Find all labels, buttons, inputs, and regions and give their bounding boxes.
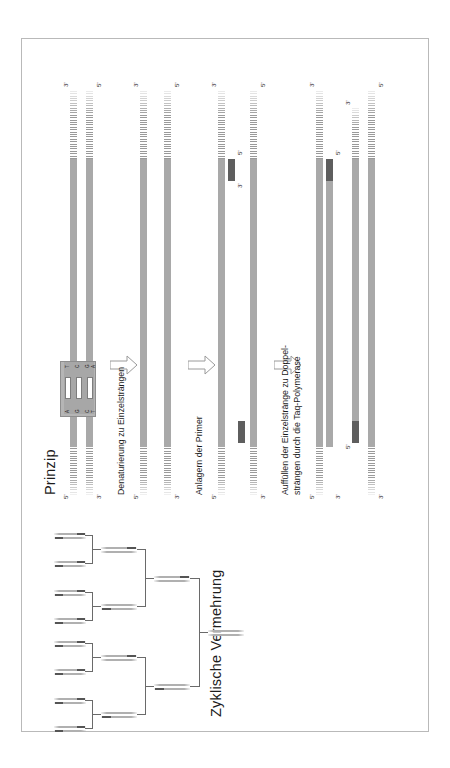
strand-body [140, 159, 147, 447]
end-label-3prime: 3' [377, 494, 384, 499]
step-label-denaturierung: Denaturierung zu Einzelsträngen [116, 367, 127, 495]
base-letter: G [85, 364, 90, 368]
strand-hatch-right [140, 89, 147, 159]
duplex [101, 710, 137, 719]
strand-body [250, 159, 257, 447]
end-label-5prime: 5' [308, 494, 315, 499]
strand-hatch-right [368, 89, 375, 159]
strand-hatch-right [86, 89, 93, 159]
duplex [54, 616, 86, 625]
end-label-3prime: 3' [62, 82, 69, 87]
strand-body [218, 159, 225, 447]
duplex [54, 724, 86, 733]
end-label-3prime: 3' [132, 82, 139, 87]
duplex [54, 588, 86, 597]
primer-lower [352, 421, 359, 443]
strand-hatch-right [70, 89, 77, 159]
section-title-prinzip: Prinzip [42, 449, 58, 495]
strand-body [368, 159, 375, 447]
strand-hatch-right [164, 89, 171, 159]
end-label-5prime: 5' [132, 494, 139, 499]
strand-hatch-left [218, 447, 225, 495]
end-label-5prime: 5' [210, 494, 217, 499]
step-label-auffuellen-line1: Auffüllen der Einzelstränge zu Doppel- [280, 345, 291, 495]
end-label-5prime: 5' [259, 82, 266, 87]
strand-hatch-left [86, 447, 93, 495]
process-arrow-icon [188, 355, 216, 375]
primer-upper [326, 159, 333, 181]
duplex [54, 667, 86, 676]
strand-hatch-left [368, 447, 375, 495]
strand-hatch-left [316, 447, 323, 495]
duplex [54, 559, 86, 568]
strand-hatch-left [250, 447, 257, 495]
strand-body-new [326, 181, 333, 447]
base-letter: T [65, 365, 70, 368]
step-label-anlagern: Anlagern der Primer [194, 416, 205, 495]
step-label-auffuellen-line2: strängen durch die Taq-Polymerase [292, 356, 303, 495]
end-label-5prime: 5' [95, 82, 102, 87]
strand-hatch-left [164, 447, 171, 495]
primer-end-label-3prime: 3' [236, 183, 243, 188]
end-label-5prime: 5' [62, 494, 69, 499]
rotated-canvas: Zyklische Vermehrung [22, 39, 430, 733]
end-label-5prime: 5' [173, 82, 180, 87]
end-label-3prime: 3' [344, 100, 351, 105]
strand-hatch-right [316, 89, 323, 159]
poster-frame: Zyklische Vermehrung [21, 38, 429, 732]
base-letter: T [91, 410, 96, 413]
strand-body [316, 159, 323, 447]
duplex [101, 545, 137, 554]
primer-lower [238, 421, 245, 443]
base-letter: C [85, 410, 90, 413]
duplex [154, 682, 190, 691]
end-label-3prime: 3' [95, 494, 102, 499]
section-title-zyklische-vermehrung: Zyklische Vermehrung [208, 570, 224, 717]
end-label-3prime: 3' [308, 82, 315, 87]
base-letter: A [91, 365, 96, 368]
end-label-5prime: 5' [334, 150, 341, 155]
primer-upper [228, 159, 235, 181]
strand-hatch-left [70, 447, 77, 495]
end-label-3prime: 3' [210, 82, 217, 87]
primer-end-label-5prime: 5' [236, 150, 243, 155]
strand-hatch-right [218, 89, 225, 159]
end-label-5prime: 5' [344, 444, 351, 449]
strand-body-new [352, 159, 359, 421]
duplex [154, 574, 190, 583]
duplex [54, 696, 86, 705]
end-label-5prime: 5' [377, 82, 384, 87]
poster-page: Zyklische Vermehrung [0, 0, 450, 768]
strand-body [164, 159, 171, 447]
base-pair-inset: A G C T T C G A [60, 361, 96, 417]
duplex [101, 602, 137, 611]
base-letter: A [65, 410, 70, 413]
strand-hatch-right [250, 89, 257, 159]
end-label-3prime: 3' [173, 494, 180, 499]
end-label-3prime: 3' [259, 494, 266, 499]
duplex [54, 639, 86, 648]
duplex [54, 531, 86, 540]
strand-hatch-left [140, 447, 147, 495]
duplex [101, 653, 137, 662]
base-letter: G [75, 409, 80, 413]
end-label-3prime: 3' [334, 494, 341, 499]
strand-hatch-right [352, 107, 359, 159]
duplex [208, 628, 244, 637]
base-letter: C [75, 365, 80, 368]
